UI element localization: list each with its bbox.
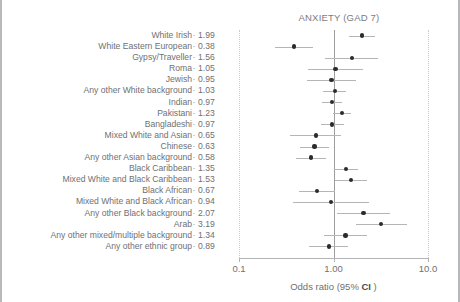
odds-ratio-value: 0.94: [198, 196, 224, 207]
row-dash: ·: [190, 141, 198, 152]
gridline-right: [428, 30, 429, 258]
row-dash: ·: [190, 108, 198, 119]
odds-ratio-value: 1.34: [198, 230, 224, 241]
x-tick-1: [334, 258, 335, 262]
point-estimate-marker: [312, 144, 316, 148]
x-axis-title: Odds ratio (95% CI ): [239, 281, 428, 292]
odds-ratio-value: 1.99: [198, 30, 224, 41]
odds-ratio-value: 0.38: [198, 41, 224, 52]
x-tick-0: [239, 258, 240, 262]
category-label: Black African: [10, 185, 192, 196]
point-estimate-marker: [361, 211, 365, 215]
point-estimate-marker: [350, 56, 354, 60]
category-label: White Eastern European: [10, 41, 192, 52]
category-label: Gypsy/Traveller: [10, 52, 192, 63]
category-label: Any other ethnic group: [10, 241, 192, 252]
odds-ratio-value: 0.89: [198, 241, 224, 252]
category-label: Indian: [10, 97, 192, 108]
point-estimate-marker: [292, 44, 296, 48]
point-estimate-marker: [315, 189, 319, 193]
category-label: Bangladeshi: [10, 119, 192, 130]
row-dash: ·: [190, 130, 198, 141]
row-dash: ·: [190, 174, 198, 185]
forest-plot: ANXIETY (GAD 7) White IrishWhite Eastern…: [2, 0, 460, 302]
figure-frame: ANXIETY (GAD 7) White IrishWhite Eastern…: [0, 0, 460, 302]
row-dash: ·: [190, 219, 198, 230]
category-label: Chinese: [10, 141, 192, 152]
point-estimate-marker: [333, 67, 337, 71]
point-estimate-marker: [309, 155, 313, 159]
point-estimate-marker: [379, 222, 383, 226]
category-label: White Irish: [10, 30, 192, 41]
point-estimate-marker: [360, 33, 364, 37]
row-dash: ·: [190, 152, 198, 163]
row-dash: ·: [190, 85, 198, 96]
point-estimate-marker: [329, 200, 333, 204]
point-estimate-marker: [343, 233, 347, 237]
category-label: Mixed White and Black African: [10, 196, 192, 207]
point-estimate-marker: [333, 89, 337, 93]
odds-ratio-value: 0.67: [198, 185, 224, 196]
row-dash: ·: [190, 163, 198, 174]
plot-area: [239, 30, 428, 258]
row-dash: ·: [190, 30, 198, 41]
reference-line-1: [334, 30, 335, 258]
odds-ratio-value: 3.19: [198, 219, 224, 230]
odds-ratio-value: 0.95: [198, 74, 224, 85]
x-tick-label-2: 10.0: [406, 263, 450, 274]
row-dash: ·: [190, 97, 198, 108]
x-tick-label-0: 0.1: [217, 263, 261, 274]
odds-ratio-value: 1.23: [198, 108, 224, 119]
category-label: Any other mixed/multiple background: [10, 230, 192, 241]
odds-ratio-value-column: 1.990.381.561.050.951.030.971.230.970.65…: [198, 30, 224, 252]
row-dash: ·: [190, 241, 198, 252]
odds-ratio-value: 1.53: [198, 174, 224, 185]
gridline-left: [239, 30, 240, 258]
odds-ratio-value: 1.05: [198, 63, 224, 74]
category-label: Jewish: [10, 74, 192, 85]
category-label: Pakistani: [10, 108, 192, 119]
row-dash: ·: [190, 63, 198, 74]
row-dash: ·: [190, 119, 198, 130]
row-dash-column: ····················: [190, 30, 198, 252]
odds-ratio-value: 1.03: [198, 85, 224, 96]
row-dash: ·: [190, 185, 198, 196]
point-estimate-marker: [340, 111, 344, 115]
category-label-column: White IrishWhite Eastern EuropeanGypsy/T…: [10, 30, 192, 252]
point-estimate-marker: [327, 244, 331, 248]
row-dash: ·: [190, 74, 198, 85]
odds-ratio-value: 0.58: [198, 152, 224, 163]
row-dash: ·: [190, 52, 198, 63]
odds-ratio-value: 1.35: [198, 163, 224, 174]
category-label: Roma: [10, 63, 192, 74]
point-estimate-marker: [314, 133, 318, 137]
point-estimate-marker: [349, 178, 353, 182]
row-dash: ·: [190, 196, 198, 207]
point-estimate-marker: [329, 78, 333, 82]
category-label: Any other White background: [10, 85, 192, 96]
x-tick-2: [428, 258, 429, 262]
x-tick-label-1: 1.00: [312, 263, 356, 274]
category-label: Mixed White and Black Caribbean: [10, 174, 192, 185]
row-dash: ·: [190, 230, 198, 241]
point-estimate-marker: [330, 122, 334, 126]
odds-ratio-value: 2.07: [198, 208, 224, 219]
odds-ratio-value: 0.97: [198, 97, 224, 108]
odds-ratio-value: 0.97: [198, 119, 224, 130]
category-label: Black Caribbean: [10, 163, 192, 174]
row-dash: ·: [190, 41, 198, 52]
category-label: Any other Asian background: [10, 152, 192, 163]
odds-ratio-value: 0.65: [198, 130, 224, 141]
category-label: Any other Black background: [10, 208, 192, 219]
category-label: Arab: [10, 219, 192, 230]
category-label: Mixed White and Asian: [10, 130, 192, 141]
row-dash: ·: [190, 208, 198, 219]
odds-ratio-value: 0.63: [198, 141, 224, 152]
odds-ratio-value: 1.56: [198, 52, 224, 63]
chart-title: ANXIETY (GAD 7): [239, 12, 439, 23]
point-estimate-marker: [344, 167, 348, 171]
